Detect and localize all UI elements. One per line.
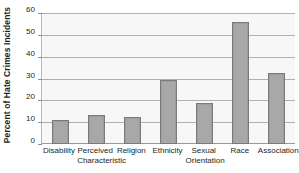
y-tick-label-20: 20 bbox=[26, 92, 35, 101]
bar-fill bbox=[90, 117, 103, 143]
x-tick-label-line: Association bbox=[258, 146, 294, 156]
y-tick-label-30: 30 bbox=[26, 70, 35, 79]
x-tick-label-line: Characteristic bbox=[77, 156, 113, 166]
bar bbox=[124, 117, 141, 144]
bar bbox=[52, 120, 69, 144]
x-tick-label: PerceivedCharacteristic bbox=[77, 146, 113, 165]
bar-fill bbox=[198, 105, 211, 143]
y-axis-title: Percent of Hate Crimes Incidents bbox=[0, 0, 14, 150]
bar bbox=[196, 103, 213, 144]
bar bbox=[268, 73, 285, 144]
x-tick-label: Disability bbox=[41, 146, 77, 156]
x-tick-label-line: Race bbox=[222, 146, 258, 156]
x-tick-label: Association bbox=[258, 146, 294, 156]
bar-fill bbox=[270, 75, 283, 143]
y-tickmark-0 bbox=[38, 144, 42, 145]
y-tick-label-40: 40 bbox=[26, 48, 35, 57]
y-axis-title-text: Percent of Hate Crimes Incidents bbox=[2, 7, 12, 143]
bar bbox=[88, 115, 105, 144]
x-axis-tick-labels: DisabilityPerceivedCharacteristicReligio… bbox=[41, 146, 294, 173]
bar-fill bbox=[234, 24, 247, 143]
x-tick-label-line: Perceived bbox=[77, 146, 113, 156]
bar-chart-figure: Percent of Hate Crimes Incidents 0102030… bbox=[0, 0, 299, 173]
y-tick-label-60: 60 bbox=[26, 5, 35, 14]
x-tick-label: Race bbox=[222, 146, 258, 156]
plot-area bbox=[41, 13, 295, 144]
y-tick-label-10: 10 bbox=[26, 114, 35, 123]
bar-fill bbox=[54, 122, 67, 143]
y-tick-label-50: 50 bbox=[26, 26, 35, 35]
y-tick-label-0: 0 bbox=[31, 136, 35, 145]
x-tick-label: SexualOrientation bbox=[186, 146, 222, 165]
bar bbox=[160, 80, 177, 144]
x-tick-label-line: Ethnicity bbox=[149, 146, 185, 156]
x-tick-label: Religion bbox=[113, 146, 149, 156]
y-axis-tick-labels: 0102030405060 bbox=[14, 9, 38, 144]
bar bbox=[232, 22, 249, 144]
x-tick-label-line: Orientation bbox=[186, 156, 222, 166]
bars-layer bbox=[42, 13, 295, 144]
bar-fill bbox=[126, 119, 139, 143]
x-tick-label-line: Disability bbox=[41, 146, 77, 156]
x-tick-label-line: Sexual bbox=[186, 146, 222, 156]
x-tick-label-line: Religion bbox=[113, 146, 149, 156]
x-tick-label: Ethnicity bbox=[149, 146, 185, 156]
bar-fill bbox=[162, 82, 175, 143]
